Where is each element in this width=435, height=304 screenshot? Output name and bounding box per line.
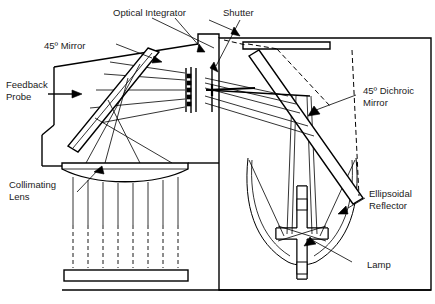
label-collimating-line1: Collimating	[9, 179, 56, 190]
diagram-canvas: Optical Integrator Shutter 45º Mirror Fe…	[0, 0, 435, 304]
collimating-lens	[62, 163, 188, 182]
optical-system-diagram: Optical Integrator Shutter 45º Mirror Fe…	[0, 0, 435, 304]
label-lamp: Lamp	[367, 259, 391, 270]
mirror-45	[68, 48, 159, 152]
label-feedback-probe-line1: Feedback	[6, 79, 48, 90]
label-ellipsoidal-line1: Ellipsoidal	[369, 188, 412, 199]
label-45-mirror: 45º Mirror	[44, 40, 85, 51]
label-collimating-line2: Lens	[9, 191, 30, 202]
exit-plate	[64, 270, 188, 281]
optical-integrator	[186, 67, 196, 113]
label-dichroic-line1: 45º Dichroic	[363, 85, 414, 96]
housing-outline	[42, 34, 431, 290]
output-beam	[73, 177, 178, 268]
label-optical-integrator: Optical Integrator	[113, 7, 186, 18]
label-ellipsoidal-line2: Reflector	[369, 200, 407, 211]
label-shutter: Shutter	[223, 7, 254, 18]
label-dichroic-line2: Mirror	[363, 97, 388, 108]
dichroic-mirror	[249, 50, 363, 204]
lamp-assembly	[276, 186, 328, 279]
feedback-probe-arrow[interactable]	[48, 90, 82, 98]
label-feedback-probe-line2: Probe	[6, 91, 31, 102]
